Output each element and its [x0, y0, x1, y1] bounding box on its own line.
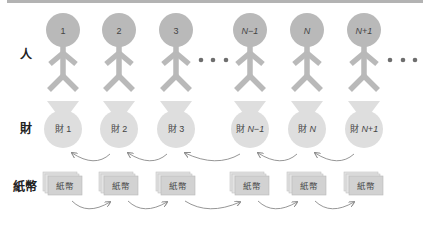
arrow-right-icon	[185, 201, 240, 209]
bills-row: 紙幣紙幣紙幣紙幣紙幣紙幣	[43, 172, 383, 195]
goods-bag: 財 N−1	[231, 101, 269, 148]
paper-money-label: 紙幣	[300, 181, 318, 191]
goods-label: 財 1	[55, 123, 72, 134]
arrow-left-icon	[258, 153, 297, 161]
person-figure: N+1	[347, 13, 381, 90]
paper-money-stack: 紙幣	[99, 172, 138, 195]
exchange-diagram: 123N−1NN+1 財 1財 2財 3財 N−1財 N財 N+1 紙幣紙幣紙幣…	[0, 0, 430, 226]
arrow-right-icon	[72, 201, 110, 209]
ellipsis-dots-icon	[199, 58, 229, 63]
goods-label: 財 N+1	[350, 123, 378, 134]
paper-money-stack: 紙幣	[156, 172, 195, 195]
goods-label: 財 N−1	[236, 123, 264, 134]
person-number-label: 3	[173, 26, 178, 36]
goods-flow-arrows	[72, 153, 354, 161]
arrow-left-icon	[185, 153, 240, 161]
goods-bag: 財 3	[157, 101, 195, 148]
goods-bag: 財 N	[288, 101, 326, 148]
person-number-label: 1	[60, 26, 65, 36]
goods-label: 財 3	[168, 123, 185, 134]
people-row: 123N−1NN+1	[46, 13, 381, 90]
ellipsis-dots-icon	[388, 58, 418, 63]
goods-label: 財 N	[298, 123, 317, 134]
goods-row: 財 1財 2財 3財 N−1財 N財 N+1	[44, 101, 383, 148]
paper-money-label: 紙幣	[243, 181, 261, 191]
goods-bag: 財 1	[44, 101, 82, 148]
arrow-left-icon	[315, 153, 354, 161]
person-number-label: 2	[116, 26, 121, 36]
person-number-label: N+1	[356, 26, 373, 36]
money-flow-arrows	[72, 201, 354, 209]
paper-money-stack: 紙幣	[43, 172, 82, 195]
paper-money-label: 紙幣	[357, 181, 375, 191]
arrow-left-icon	[128, 153, 167, 161]
person-figure: 3	[159, 13, 193, 90]
person-figure: N	[290, 13, 324, 90]
person-number-label: N−1	[242, 26, 259, 36]
arrow-right-icon	[315, 201, 354, 209]
paper-money-label: 紙幣	[112, 181, 130, 191]
person-figure: 1	[46, 13, 80, 90]
paper-money-label: 紙幣	[56, 181, 74, 191]
person-figure: N−1	[233, 13, 267, 90]
arrow-left-icon	[72, 153, 110, 161]
goods-bag: 財 N+1	[345, 101, 383, 148]
goods-bag: 財 2	[100, 101, 138, 148]
paper-money-stack: 紙幣	[287, 172, 326, 195]
arrow-right-icon	[128, 201, 167, 209]
paper-money-stack: 紙幣	[344, 172, 383, 195]
goods-label: 財 2	[111, 123, 128, 134]
paper-money-stack: 紙幣	[230, 172, 269, 195]
paper-money-label: 紙幣	[169, 181, 187, 191]
arrow-right-icon	[258, 201, 297, 209]
person-figure: 2	[102, 13, 136, 90]
person-number-label: N	[304, 26, 311, 36]
